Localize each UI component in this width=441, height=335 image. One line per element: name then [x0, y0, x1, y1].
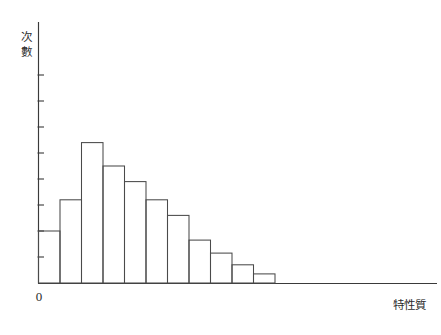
histogram-bar [125, 182, 147, 283]
histogram-bar [168, 215, 190, 283]
histogram-bar [60, 200, 82, 283]
histogram-bar [82, 143, 104, 283]
origin-label: 0 [36, 289, 43, 304]
x-axis-label: 特性質 [393, 298, 426, 312]
histogram-bar [254, 274, 276, 283]
histogram-figure: 次 數 0 特性質 [0, 0, 441, 335]
y-axis-label: 次 數 [21, 30, 33, 59]
histogram-bar [146, 200, 168, 283]
histogram-bar [211, 253, 233, 283]
histogram-bar [103, 166, 125, 283]
histogram-bars [39, 143, 276, 283]
histogram-svg: 次 數 0 特性質 [0, 0, 441, 335]
y-axis-label-char-1: 次 [21, 30, 33, 44]
y-axis-label-char-2: 數 [21, 45, 33, 59]
histogram-bar [232, 265, 254, 283]
histogram-bar [189, 240, 211, 283]
